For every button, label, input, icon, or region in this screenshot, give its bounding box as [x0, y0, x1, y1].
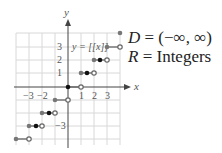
svg-text:2: 2 — [92, 90, 97, 101]
svg-text:1: 1 — [79, 90, 84, 101]
domain-line: D = (−∞, ∞) — [128, 28, 212, 47]
svg-text:2: 2 — [57, 54, 62, 65]
greatest-integer-graph: x y −3 −2 1 2 3 1 2 3 −3 y = [[x]] — [0, 0, 222, 153]
range-line: R = Integers — [128, 47, 212, 66]
svg-text:−3: −3 — [55, 120, 66, 131]
svg-text:1: 1 — [57, 67, 62, 78]
svg-text:3: 3 — [105, 90, 110, 101]
x-axis-arrow-icon — [124, 84, 131, 90]
svg-text:−3: −3 — [23, 90, 34, 101]
y-axis-label: y — [63, 6, 69, 18]
x-axis-label: x — [133, 80, 139, 92]
y-axis-arrow-icon — [65, 19, 71, 26]
function-label: y = [[x]] — [71, 41, 108, 52]
svg-text:3: 3 — [57, 41, 62, 52]
svg-text:−2: −2 — [37, 90, 48, 101]
domain-range-annotation: D = (−∞, ∞) R = Integers — [128, 28, 212, 66]
